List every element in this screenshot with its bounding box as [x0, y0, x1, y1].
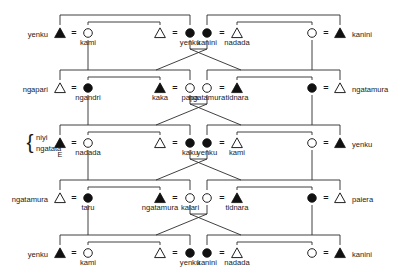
kin-label-row-4-2: ngatamura — [142, 203, 179, 212]
marriage-equals-row-3-6-7: = — [323, 138, 328, 148]
sibling-bracket — [88, 77, 160, 80]
person-symbol-row-2-1 — [84, 84, 93, 93]
sibling-bracket — [237, 77, 312, 80]
person-symbol-row-5-4 — [203, 249, 212, 258]
person-symbol-row-4-1 — [84, 194, 93, 203]
kin-label-row-1-0: yenku — [28, 30, 48, 39]
person-symbol-row-1-2 — [155, 28, 166, 38]
kin-label-row-4-5: tidnara — [225, 203, 249, 212]
marriage-equals-row-4-2-3: = — [172, 193, 177, 203]
sibling-bracket — [207, 125, 340, 135]
marriage-equals-row-2-0-1: = — [71, 83, 76, 93]
person-symbol-row-4-7 — [335, 193, 346, 203]
person-symbol-row-4-4 — [203, 194, 212, 203]
person-symbol-row-5-5 — [232, 248, 243, 258]
person-symbol-row-3-4 — [203, 139, 212, 148]
marriage-equals-row-5-2-3: = — [172, 248, 177, 258]
person-symbol-row-2-5 — [232, 83, 243, 93]
kin-label-row-3-7: yenku — [352, 140, 372, 149]
ego-marker-label: E — [58, 150, 63, 159]
marriage-equals-row-3-4-5: = — [219, 138, 224, 148]
kin-label-row-5-4: kanini — [197, 258, 217, 267]
person-symbol-row-4-2 — [155, 193, 166, 203]
person-symbol-row-1-5 — [232, 28, 243, 38]
person-symbol-row-4-0 — [55, 193, 66, 203]
descent-cross-a — [190, 214, 241, 235]
kinship-diagram-canvas: yenkukamiyenkukanininadadakanini====ngap… — [0, 0, 402, 280]
person-symbol-row-3-3 — [186, 139, 195, 148]
marriage-equals-row-1-4-5: = — [219, 28, 224, 38]
marriage-equals-row-5-0-1: = — [71, 248, 76, 258]
sibling-bracket — [60, 235, 190, 245]
descent-cross-b — [156, 104, 207, 125]
marriage-equals-row-3-2-3: = — [172, 138, 177, 148]
kin-label-row-1-5: nadada — [224, 38, 250, 47]
person-symbol-row-1-1 — [84, 29, 93, 38]
marriage-equals-row-3-0-1: = — [71, 138, 76, 148]
person-symbol-row-2-0 — [55, 83, 66, 93]
sibling-bracket — [60, 70, 190, 80]
person-symbol-row-2-4 — [203, 84, 212, 93]
descent-cross-b — [156, 159, 207, 180]
sibling-bracket — [88, 132, 160, 135]
person-symbol-row-5-7 — [335, 248, 346, 258]
marriage-equals-row-1-2-3: = — [172, 28, 177, 38]
person-symbol-row-2-2 — [155, 83, 166, 93]
person-symbol-row-4-6 — [308, 194, 317, 203]
person-symbol-row-3-7 — [335, 138, 346, 148]
kin-label-row-5-7: kanini — [352, 250, 372, 259]
person-symbol-row-1-4 — [203, 29, 212, 38]
kin-label-row-5-0: yenku — [28, 250, 48, 259]
sibling-bracket — [88, 187, 160, 190]
kin-label-row-1-7: kanini — [352, 30, 372, 39]
person-symbol-row-3-2 — [155, 138, 166, 148]
brace-glyph: { — [26, 130, 33, 153]
person-symbol-row-1-6 — [308, 29, 317, 38]
person-symbol-row-5-3 — [186, 249, 195, 258]
person-symbol-row-5-6 — [308, 249, 317, 258]
sibling-bracket — [60, 15, 190, 25]
person-symbol-row-2-7 — [335, 83, 346, 93]
kin-label-row-2-7: ngatamura — [352, 85, 389, 94]
marriage-equals-row-1-6-7: = — [323, 28, 328, 38]
marriage-equals-row-1-0-1: = — [71, 28, 76, 38]
kin-label-row-2-0: ngapari — [23, 85, 49, 94]
person-symbol-row-1-3 — [186, 29, 195, 38]
marriage-equals-row-5-4-5: = — [219, 248, 224, 258]
person-symbol-row-2-6 — [308, 84, 317, 93]
person-symbol-row-3-1 — [84, 139, 93, 148]
person-symbol-row-5-2 — [155, 248, 166, 258]
sibling-bracket — [207, 180, 340, 190]
person-symbol-row-5-1 — [84, 249, 93, 258]
sibling-bracket — [237, 187, 312, 190]
person-symbol-row-1-7 — [335, 28, 346, 38]
sibling-bracket — [88, 22, 160, 25]
sibling-bracket — [88, 242, 160, 245]
descent-cross-b — [156, 49, 207, 70]
person-symbol-row-4-3 — [186, 194, 195, 203]
person-symbol-row-4-5 — [232, 193, 243, 203]
marriage-equals-row-5-6-7: = — [323, 248, 328, 258]
kin-label-row-4-7: paiera — [352, 195, 374, 204]
sibling-bracket — [237, 132, 312, 135]
descent-cross-b — [156, 214, 207, 235]
marriage-equals-row-2-4-5: = — [219, 83, 224, 93]
kin-label-row-5-1: kami — [80, 258, 96, 267]
brace-label-line-1: niyi — [36, 133, 48, 142]
kin-label-row-4-0: ngatamura — [12, 195, 49, 204]
marriage-equals-row-4-4-5: = — [219, 193, 224, 203]
sibling-bracket — [207, 15, 340, 25]
marriage-equals-row-2-6-7: = — [323, 83, 328, 93]
person-symbol-row-3-6 — [308, 139, 317, 148]
marriage-equals-row-2-2-3: = — [172, 83, 177, 93]
sibling-bracket — [60, 125, 190, 135]
person-symbol-row-5-0 — [55, 248, 66, 258]
sibling-bracket — [207, 70, 340, 80]
descent-cross-a — [190, 49, 241, 70]
person-symbol-row-1-0 — [55, 28, 66, 38]
marriage-equals-row-4-0-1: = — [71, 193, 76, 203]
kin-label-row-5-5: nadada — [224, 258, 250, 267]
person-symbol-row-3-5 — [232, 138, 243, 148]
kin-label-row-3-5: kami — [229, 148, 245, 157]
descent-cross-a — [190, 159, 241, 180]
